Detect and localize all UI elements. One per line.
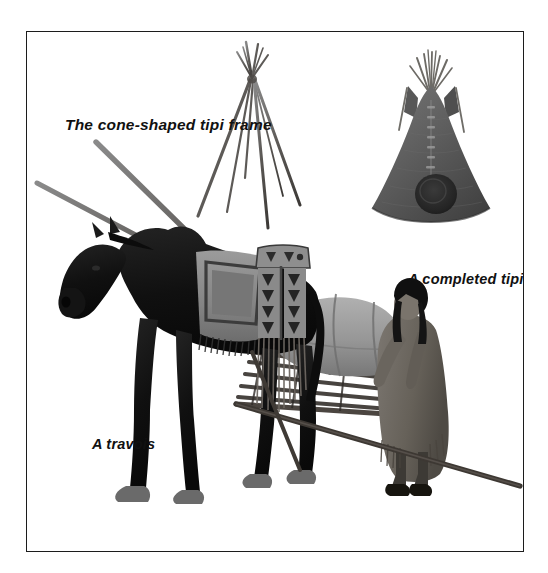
travois-pole-lower-right xyxy=(236,404,520,486)
artwork-canvas: The cone-shaped tipi frame A completed t… xyxy=(27,32,523,551)
tipi-frame-figure xyxy=(198,42,300,228)
travois-poles-upper xyxy=(37,142,330,372)
beaded-saddle-bag xyxy=(256,245,310,412)
travois-platform xyxy=(236,294,408,415)
completed-tipi-figure xyxy=(372,50,490,222)
illustration-plate: The cone-shaped tipi frame A completed t… xyxy=(0,0,548,573)
tipi-lacing-seam xyxy=(426,100,435,205)
caption-completed-tipi: A completed tipi xyxy=(408,271,523,287)
caption-cone-shaped-tipi-frame: The cone-shaped tipi frame xyxy=(65,116,272,134)
tipi-door xyxy=(415,174,457,214)
horse-legs xyxy=(130,318,316,492)
travois-bundle xyxy=(268,297,406,376)
travois-pole-mid xyxy=(252,352,300,470)
illustration-artwork xyxy=(27,32,523,551)
caption-travois: A travois xyxy=(92,436,155,452)
horse-figure xyxy=(58,216,324,504)
horse-hooves xyxy=(115,470,316,504)
woman-figure xyxy=(374,278,449,496)
saddle-blanket xyxy=(196,250,268,356)
